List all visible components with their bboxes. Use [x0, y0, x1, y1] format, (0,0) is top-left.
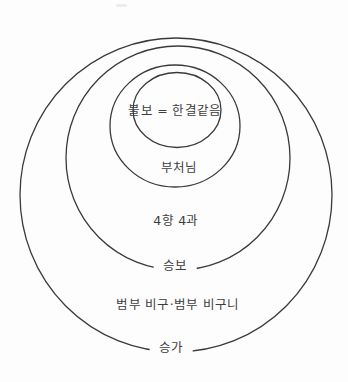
- label-four-paths: 4향 4과: [153, 215, 198, 228]
- concentric-rings: [0, 0, 348, 382]
- label-buddha: 부처님: [161, 162, 198, 175]
- label-seungbo: 승보: [154, 258, 197, 275]
- label-sangha: 승가: [150, 340, 193, 357]
- nested-circles-diagram: 불보 = 한결같음 부처님 4향 4과 승보 범부 비구·범부 비구니 승가: [0, 0, 348, 382]
- ring-seungbo-ring: [66, 46, 290, 270]
- label-bulbo: 불보 = 한결같음: [128, 105, 221, 118]
- label-ordinary-monks: 범부 비구·범부 비구니: [116, 299, 240, 312]
